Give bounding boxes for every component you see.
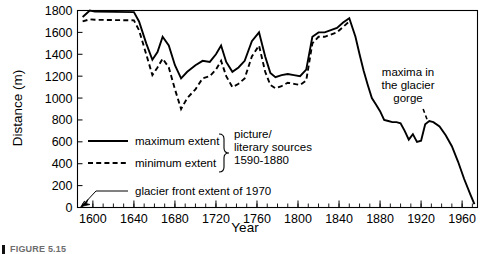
y-tick-label-1000: 1000 [45,92,73,106]
x-tick-label-1640: 1640 [120,212,148,226]
x-tick-label-1600: 1600 [79,212,107,226]
data-series-layer [81,11,475,208]
figure-caption: FIGURE 5.15 [0,242,492,254]
annotation-line-3: gorge [393,92,422,104]
caption-label: FIGURE 5.15 [10,244,66,254]
y-tick-label-200: 200 [52,179,73,193]
legend-brace-note-line-2: literary sources [234,141,312,153]
y-tick-label-600: 600 [52,135,73,149]
y-tick-label-1800: 1800 [45,4,73,18]
x-axis-tick-labels: 1600164016801720176018001840188019201960 [79,212,476,226]
y-axis-tick-labels: 020040060080010001200140016001800 [45,4,73,215]
x-axis-title: Year [231,220,259,235]
x-tick-label-1840: 1840 [325,212,353,226]
glacier-front-1970-leader-line [82,191,128,206]
glacier-extent-line-chart: 020040060080010001200140016001800 160016… [0,0,492,254]
annotation-line-2: the glacier [381,79,434,91]
x-tick-label-1720: 1720 [202,212,230,226]
x-tick-label-1920: 1920 [407,212,435,226]
caption-marker-bar [2,245,5,254]
annotation-line-1: maxima in [382,66,434,78]
plot-frame [78,11,478,208]
x-tick-label-1680: 1680 [161,212,189,226]
annotation-maxima-glacier-gorge: maxima in the glacier gorge [381,66,434,104]
y-tick-label-800: 800 [52,113,73,127]
legend-brace-note-line-1: picture/ [234,128,273,140]
chart-legend: maximum extent minimum extent picture/ l… [82,128,313,207]
x-tick-label-1880: 1880 [366,212,394,226]
y-tick-label-0: 0 [66,201,73,215]
series-maximum-extent [83,11,475,205]
series-minimum-extent [83,19,350,109]
y-tick-label-1600: 1600 [45,26,73,40]
legend-brace [219,134,229,172]
x-axis-minor-ticks [83,204,473,208]
legend-label-minimum-extent: minimum extent [135,157,217,169]
x-tick-label-1800: 1800 [284,212,312,226]
y-tick-label-1200: 1200 [45,70,73,84]
y-tick-label-1400: 1400 [45,48,73,62]
figure-root: 020040060080010001200140016001800 160016… [0,0,492,254]
y-axis-ticks [78,11,83,208]
x-tick-label-1960: 1960 [448,212,476,226]
y-axis-title: Distance (m) [10,70,25,147]
legend-brace-note-line-3: 1590-1880 [234,154,289,166]
legend-label-glacier-front-1970: glacier front extent of 1970 [135,185,271,197]
series-maxima-in-the-glacier-gorge [423,109,427,120]
y-tick-label-400: 400 [52,157,73,171]
legend-label-maximum-extent: maximum extent [135,135,220,147]
